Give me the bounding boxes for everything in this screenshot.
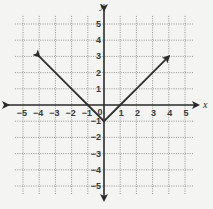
x-tick-label: 2 [135, 108, 140, 118]
y-tick-label: −4 [91, 165, 101, 175]
y-tick-label: 5 [96, 19, 101, 29]
x-tick-label: 5 [183, 108, 188, 118]
x-tick-label: −4 [33, 108, 43, 118]
y-tick-label: 4 [96, 35, 101, 45]
x-tick-label: −2 [65, 108, 75, 118]
y-tick-label: 3 [96, 51, 101, 61]
y-axis-label: y [99, 0, 105, 11]
x-tick-label: 4 [167, 108, 172, 118]
x-tick-label: 1 [119, 108, 124, 118]
coordinate-plane: x y −5−4−3−2−112345012345−1−2−3−4−5 [0, 0, 213, 209]
y-tick-label: 1 [96, 84, 101, 94]
y-tick-label: 2 [96, 68, 101, 78]
y-tick-label: −5 [91, 181, 101, 191]
y-tick-label: −3 [91, 149, 101, 159]
x-tick-label: 3 [151, 108, 156, 118]
x-tick-label: −3 [49, 108, 59, 118]
x-tick-label: −5 [17, 108, 27, 118]
x-axis-label: x [202, 99, 208, 110]
y-tick-label: −2 [91, 132, 101, 142]
